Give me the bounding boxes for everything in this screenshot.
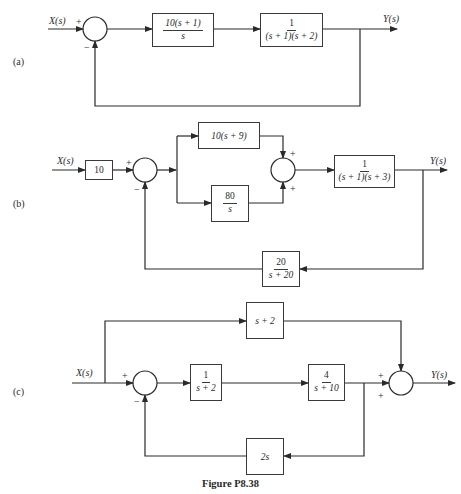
panel-label-b: (b)	[13, 199, 25, 209]
sum-c2-sign-bottom: +	[378, 391, 384, 401]
panel-label-a: (a)	[13, 57, 24, 67]
block-b-integral-num: 80	[223, 192, 237, 204]
block-a-controller-num: 10(s + 1)	[163, 19, 202, 31]
block-b-plant-den: (s + 1)(s + 3)	[339, 172, 391, 183]
input-label-b: X(s)	[57, 156, 74, 166]
block-a-controller: 10(s + 1)s	[152, 13, 214, 47]
block-b-proportional: 10(s + 9)	[198, 122, 260, 149]
block-b-proportional-text: 10(s + 9)	[211, 131, 246, 141]
output-label-a: Y(s)	[383, 14, 399, 24]
block-a-plant-num: 1	[287, 19, 296, 31]
block-b-feedback: 20s + 20	[262, 251, 300, 287]
block-c-g1-num: 1	[202, 371, 211, 383]
panel-label-c: (c)	[13, 387, 24, 397]
block-c-feedforward-text: s + 2	[255, 316, 275, 326]
sum-c1-sign-plus: +	[122, 371, 128, 381]
block-c-feedback-text: 2s	[261, 452, 269, 462]
block-a-controller-den: s	[181, 31, 185, 42]
block-b-feedback-num: 20	[274, 258, 288, 270]
block-b-gain-text: 10	[94, 165, 104, 175]
sum-b2-sign-bottom: +	[290, 184, 296, 194]
figure-caption: Figure P8.38	[0, 478, 461, 489]
output-label-c: Y(s)	[431, 370, 447, 380]
sum-c2-sign-top: +	[378, 371, 384, 381]
block-c-g2-den: s + 10	[314, 383, 338, 394]
block-b-integral: 80s	[211, 185, 249, 222]
block-c-feedback: 2s	[246, 438, 284, 475]
block-a-plant-den: (s + 1)(s + 2)	[266, 31, 318, 42]
block-b-gain: 10	[85, 160, 113, 180]
block-c-g2-num: 4	[322, 371, 331, 383]
diagram-wiring	[0, 0, 461, 494]
input-label-c: X(s)	[76, 368, 93, 378]
block-c-g2: 4s + 10	[308, 364, 345, 401]
block-c-feedforward: s + 2	[246, 302, 284, 339]
block-b-plant: 1(s + 1)(s + 3)	[334, 155, 395, 188]
block-b-plant-num: 1	[360, 160, 369, 172]
block-c-g1: 1s + 2	[190, 364, 222, 401]
output-label-b: Y(s)	[430, 156, 446, 166]
block-a-plant: 1(s + 1)(s + 2)	[260, 13, 323, 47]
block-c-g1-den: s + 2	[196, 383, 216, 394]
sum-a-sign-minus: −	[84, 43, 90, 53]
sum-b1-sign-plus: +	[126, 158, 132, 168]
sum-a-sign-plus: +	[76, 17, 82, 27]
input-label-a: X(s)	[49, 16, 66, 26]
sum-c1-sign-minus: −	[134, 397, 140, 407]
sum-b1-sign-minus: −	[134, 185, 140, 195]
sum-b2-sign-top: +	[290, 149, 296, 159]
block-b-feedback-den: s + 20	[269, 270, 293, 281]
block-b-integral-den: s	[228, 204, 232, 215]
